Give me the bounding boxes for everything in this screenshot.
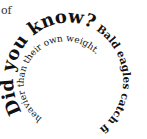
- spiral-text-graphic: Did you know? Bald eagles catch fish tha…: [0, 0, 147, 139]
- spiral-fact-inner: heavier than their own weight.: [16, 33, 103, 124]
